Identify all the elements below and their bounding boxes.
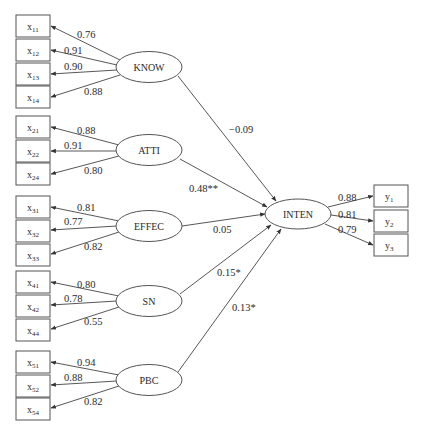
- path-arrow-pbc-inten: [178, 229, 281, 372]
- sem-diagram: x11 x12 x13 x14 0.76 0.91 0.90 0.88 x21 …: [0, 0, 422, 432]
- latent-label: INTEN: [283, 209, 313, 220]
- loading-value: 0.82: [84, 396, 102, 407]
- loading-arrow: [51, 70, 117, 74]
- loading-value: 0.88: [84, 86, 102, 97]
- latent-know: KNOW: [116, 52, 182, 83]
- loading-value: 0.55: [84, 316, 102, 327]
- latent-pbc: PBC: [116, 365, 182, 396]
- loading-value: 0.77: [64, 216, 82, 227]
- latent-inten: INTEN: [265, 199, 331, 229]
- latent-label: ATTI: [138, 145, 160, 156]
- loading-value: 0.80: [77, 279, 95, 290]
- loading-arrow: [51, 50, 117, 65]
- loading-arrow: [51, 226, 117, 230]
- loading-value: 0.79: [338, 224, 356, 235]
- indicator-group-atti: x21 x22 x24 0.88 0.91 0.80: [16, 116, 119, 185]
- path-coefficient: 0.13*: [232, 302, 256, 313]
- structural-paths: −0.09 0.48** 0.05 0.15* 0.13*: [178, 76, 281, 372]
- loading-value: 0.91: [64, 45, 82, 56]
- latent-label: PBC: [140, 375, 159, 386]
- latent-effec: EFFEC: [116, 211, 182, 242]
- path-coefficient: −0.09: [229, 124, 253, 135]
- loading-arrow: [51, 301, 117, 305]
- indicator-group-inten: y1 y2 y3 0.88 0.81 0.79: [325, 185, 408, 256]
- loading-value: 0.88: [64, 372, 82, 383]
- latent-label: KNOW: [133, 62, 165, 73]
- indicator-group-sn: x41 x42 x44 0.80 0.78 0.55: [16, 271, 119, 341]
- loading-value: 0.76: [77, 29, 95, 40]
- loading-value: 0.88: [338, 192, 356, 203]
- indicator-group-effec: x31 x32 x33 0.81 0.77 0.82: [16, 196, 119, 266]
- path-coefficient: 0.48**: [189, 183, 218, 194]
- path-arrow-sn-inten: [180, 225, 271, 294]
- loading-value: 0.80: [84, 165, 102, 176]
- path-coefficient: 0.05: [213, 224, 231, 235]
- loading-value: 0.81: [77, 202, 95, 213]
- loading-value: 0.82: [84, 241, 102, 252]
- latent-label: EFFEC: [134, 221, 164, 232]
- indicator-group-pbc: x51 x52 x54 0.94 0.88 0.82: [16, 351, 119, 420]
- loading-value: 0.94: [77, 357, 96, 368]
- indicator-group-know: x11 x12 x13 x14 0.76 0.91 0.90 0.88: [16, 15, 120, 108]
- latent-sn: SN: [116, 286, 182, 317]
- latent-label: SN: [143, 296, 156, 307]
- latent-atti: ATTI: [116, 135, 182, 166]
- path-coefficient: 0.15*: [217, 267, 241, 278]
- loading-arrow: [51, 381, 117, 385]
- loading-value: 0.81: [338, 209, 356, 220]
- loading-value: 0.90: [64, 61, 82, 72]
- loading-value: 0.88: [77, 125, 95, 136]
- loading-value: 0.91: [64, 140, 82, 151]
- loading-value: 0.78: [64, 293, 82, 304]
